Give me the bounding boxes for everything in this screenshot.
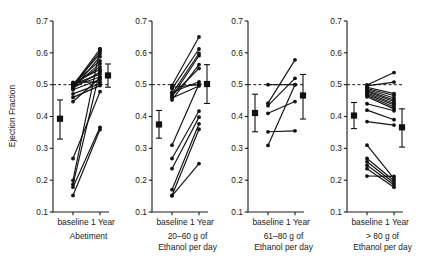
subject-point-baseline (71, 88, 75, 92)
subject-point-one-year (197, 54, 201, 58)
panel-caption-line: > 80 g of (366, 231, 400, 241)
mean-marker-one-year (399, 109, 405, 147)
x-tick-label-one-year: 1 Year (286, 217, 310, 227)
y-tick-label: 0.5 (231, 79, 243, 89)
mean-square (399, 124, 405, 130)
subject-point-baseline (71, 92, 75, 96)
subject-point-one-year (293, 58, 297, 62)
subject-point-one-year (197, 63, 201, 67)
x-tick-label-baseline: baseline (252, 217, 284, 227)
subject-point-one-year (98, 68, 102, 72)
y-tick-label: 0.2 (330, 175, 342, 185)
panel-caption-line: 61–80 g of (264, 231, 304, 241)
subject-point-one-year (197, 67, 201, 71)
y-tick-label: 0.2 (36, 175, 48, 185)
x-tick-label-baseline: baseline (57, 217, 89, 227)
subject-point-one-year (197, 115, 201, 119)
y-tick-label: 0.6 (135, 48, 147, 58)
subject-point-baseline (365, 108, 369, 112)
subject-line (367, 165, 394, 185)
subject-point-baseline (365, 174, 369, 178)
mean-marker-baseline (57, 100, 63, 139)
subject-line (268, 60, 295, 103)
subject-line (367, 122, 394, 126)
subject-point-baseline (266, 104, 270, 108)
y-tick-label: 0.4 (135, 111, 147, 121)
subject-point-one-year (98, 84, 102, 88)
subject-line (73, 70, 100, 184)
y-tick-label: 0.4 (231, 111, 243, 121)
subject-point-baseline (365, 160, 369, 164)
y-tick-label: 0.5 (135, 79, 147, 89)
y-tick-label: 0.6 (36, 48, 48, 58)
subject-point-baseline (365, 95, 369, 99)
y-tick-label: 0.1 (330, 207, 342, 217)
subject-point-one-year (197, 109, 201, 113)
subject-point-baseline (266, 111, 270, 115)
subject-point-one-year (293, 100, 297, 104)
y-tick-label: 0.5 (36, 79, 48, 89)
mean-marker-one-year (204, 65, 210, 104)
subject-point-baseline (71, 100, 75, 104)
panel-ethanol-61-80: 0.70.60.50.40.30.20.1baseline1 Year61–80… (231, 16, 313, 252)
subject-point-one-year (197, 35, 201, 39)
mean-marker-baseline (156, 110, 162, 138)
subject-point-baseline (71, 81, 75, 85)
subject-point-one-year (98, 90, 102, 94)
subject-point-baseline (266, 144, 270, 148)
y-tick-label: 0.1 (231, 207, 243, 217)
subject-point-one-year (392, 109, 396, 113)
subject-point-one-year (98, 47, 102, 51)
subject-point-one-year (98, 128, 102, 132)
subject-point-one-year (392, 174, 396, 178)
mean-square (105, 72, 111, 78)
mean-square (351, 112, 357, 118)
panel-caption-line: Abetiment (70, 231, 108, 241)
subject-point-one-year (293, 76, 297, 80)
y-tick-label: 0.7 (231, 16, 243, 26)
subject-point-baseline (71, 157, 75, 161)
subject-point-one-year (197, 122, 201, 126)
subject-point-baseline (365, 120, 369, 124)
subject-point-one-year (197, 82, 201, 86)
subject-point-baseline (170, 90, 174, 94)
subject-point-one-year (293, 129, 297, 133)
subject-line (268, 102, 295, 114)
subject-point-baseline (170, 96, 174, 100)
mean-square (204, 81, 210, 87)
x-tick-label-one-year: 1 Year (190, 217, 214, 227)
y-axis-label: Ejection Fraction (7, 84, 17, 147)
panel-ethanol-over-80: 0.70.60.50.40.30.20.1baseline1 Year> 80 … (330, 16, 412, 252)
x-tick-label-baseline: baseline (156, 217, 188, 227)
y-tick-label: 0.7 (135, 16, 147, 26)
y-tick-label: 0.4 (36, 111, 48, 121)
subject-point-one-year (392, 118, 396, 122)
y-tick-label: 0.3 (231, 143, 243, 153)
subject-point-baseline (266, 83, 270, 87)
y-tick-label: 0.3 (135, 143, 147, 153)
y-tick-label: 0.7 (36, 16, 48, 26)
subject-point-baseline (365, 167, 369, 171)
panel-axes (248, 21, 304, 212)
y-tick-label: 0.4 (330, 111, 342, 121)
subject-point-one-year (197, 162, 201, 166)
subject-line (172, 84, 199, 145)
subject-point-baseline (170, 157, 174, 161)
mean-marker-one-year (105, 64, 111, 87)
y-tick-label: 0.5 (330, 79, 342, 89)
multi-panel-line-plot: Ejection Fraction0.70.60.50.40.30.20.1ba… (0, 0, 425, 276)
y-tick-label: 0.1 (36, 207, 48, 217)
subject-point-baseline (365, 163, 369, 167)
subject-point-one-year (293, 83, 297, 87)
y-tick-label: 0.7 (330, 16, 342, 26)
subject-point-baseline (170, 194, 174, 198)
subject-point-baseline (365, 102, 369, 106)
subject-point-one-year (197, 127, 201, 131)
subject-point-one-year (392, 71, 396, 75)
subject-line (367, 110, 394, 120)
subject-point-baseline (71, 185, 75, 189)
subject-line (172, 129, 199, 195)
ejection-fraction-figure: Ejection Fraction0.70.60.50.40.30.20.1ba… (0, 0, 425, 276)
subject-point-baseline (266, 130, 270, 134)
panel-caption-line: Ethanol per day (158, 242, 217, 252)
